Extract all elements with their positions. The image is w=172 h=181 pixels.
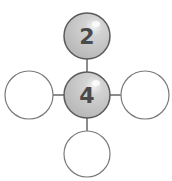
node-top: 2 xyxy=(64,13,110,59)
node-bottom-empty[interactable] xyxy=(64,131,110,177)
node-center-label: 4 xyxy=(79,83,94,108)
number-bond-diagram: 2 4 xyxy=(0,0,172,181)
node-center: 4 xyxy=(64,72,110,118)
node-left-empty[interactable] xyxy=(5,71,53,119)
node-right-empty[interactable] xyxy=(121,71,169,119)
node-top-label: 2 xyxy=(79,24,94,49)
